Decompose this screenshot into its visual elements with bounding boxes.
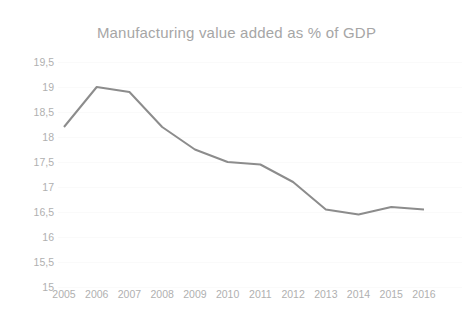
x-axis-tick-label: 2009 [183, 288, 206, 300]
y-axis-tick-label: 17,5 [10, 156, 54, 168]
y-axis-tick-label: 17 [10, 181, 54, 193]
x-axis-tick-label: 2015 [380, 288, 403, 300]
chart-container: Manufacturing value added as % of GDP 19… [0, 0, 473, 312]
y-axis-tick-label: 16 [10, 231, 54, 243]
y-axis: 19,51918,51817,51716,51615,515 [10, 0, 54, 312]
x-axis-tick-label: 2005 [52, 288, 75, 300]
data-line-series-0 [64, 87, 424, 215]
data-series-group [64, 87, 424, 215]
gridlines [58, 63, 462, 288]
y-axis-tick-label: 18 [10, 131, 54, 143]
x-axis-tick-label: 2016 [412, 288, 435, 300]
x-axis: 2005200620072008200920102011201220132014… [0, 288, 473, 308]
x-axis-tick-label: 2013 [314, 288, 337, 300]
x-axis-tick-label: 2011 [249, 288, 272, 300]
x-axis-tick-label: 2014 [347, 288, 370, 300]
x-axis-tick-label: 2007 [118, 288, 141, 300]
x-axis-tick-label: 2010 [216, 288, 239, 300]
x-axis-tick-label: 2008 [150, 288, 173, 300]
y-axis-tick-label: 19 [10, 81, 54, 93]
y-axis-tick-label: 16,5 [10, 206, 54, 218]
y-axis-tick-label: 18,5 [10, 106, 54, 118]
x-axis-tick-label: 2006 [85, 288, 108, 300]
y-axis-tick-label: 19,5 [10, 56, 54, 68]
y-axis-tick-label: 15,5 [10, 256, 54, 268]
chart-plot-area [0, 0, 473, 312]
x-axis-tick-label: 2012 [281, 288, 304, 300]
